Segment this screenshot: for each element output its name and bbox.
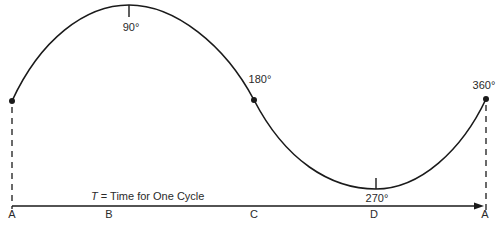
label-270-deg: 270° [366,193,389,204]
label-90-deg: 90° [123,22,140,33]
sine-wave-diagram [0,0,501,229]
label-180-deg: 180° [249,74,272,85]
point-360-deg [483,96,489,102]
caption-variable: T [91,190,98,202]
axis-label-d: D [370,209,378,220]
axis-caption: T = Time for One Cycle [91,191,204,202]
axis-label-c: C [250,209,258,220]
sine-curve [12,5,486,189]
caption-text: = Time for One Cycle [98,190,205,202]
point-0-deg [9,98,15,104]
point-180-deg [251,97,257,103]
axis-label-a-start: A [8,209,15,220]
axis-label-b: B [105,209,112,220]
label-360-deg: 360° [473,80,496,91]
axis-label-a-end: A [481,209,488,220]
